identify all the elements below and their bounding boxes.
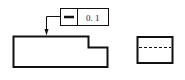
front-view-outline bbox=[14, 37, 108, 68]
feature-control-frame: 0. 1 bbox=[61, 9, 109, 26]
drawing-canvas: 0. 1 bbox=[0, 0, 185, 80]
arrowhead-icon bbox=[45, 29, 49, 36]
leader-arrow bbox=[45, 17, 61, 36]
tolerance-value: 0. 1 bbox=[86, 13, 100, 23]
side-view bbox=[138, 37, 173, 63]
